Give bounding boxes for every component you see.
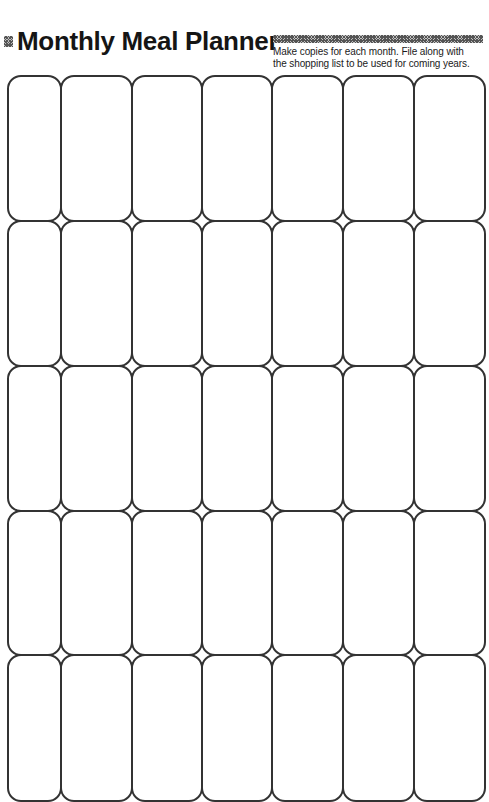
day-cell[interactable] [60,220,133,367]
day-cell[interactable] [413,654,486,802]
day-cell[interactable] [131,220,203,367]
day-cell[interactable] [7,220,62,367]
day-cell[interactable] [7,365,62,512]
day-cell[interactable] [60,75,133,222]
day-cell[interactable] [131,75,203,222]
day-cell[interactable] [60,510,133,656]
day-cell[interactable] [201,220,273,367]
day-cell[interactable] [271,654,344,802]
day-cell[interactable] [201,654,273,802]
day-cell[interactable] [201,365,273,512]
day-cell[interactable] [342,220,415,367]
day-cell[interactable] [342,75,415,222]
day-cell[interactable] [271,510,344,656]
day-cell[interactable] [271,365,344,512]
day-cell[interactable] [413,365,486,512]
day-cell[interactable] [60,654,133,802]
day-cell[interactable] [342,654,415,802]
day-cell[interactable] [60,365,133,512]
day-cell[interactable] [7,654,62,802]
page-title: Monthly Meal Planner [17,26,278,56]
day-cell[interactable] [342,510,415,656]
hatched-bar-decoration [273,35,483,43]
day-cell[interactable] [413,510,486,656]
day-cell[interactable] [7,75,62,222]
day-cell[interactable] [413,220,486,367]
day-cell[interactable] [271,75,344,222]
day-cell[interactable] [271,220,344,367]
hatched-square-icon [4,36,13,47]
day-cell[interactable] [131,365,203,512]
instructions-line-2: the shopping list to be used for coming … [273,58,488,70]
instructions-text: Make copies for each month. File along w… [273,46,488,70]
day-cell[interactable] [131,654,203,802]
day-cell[interactable] [342,365,415,512]
day-cell[interactable] [413,75,486,222]
day-cell[interactable] [131,510,203,656]
day-cell[interactable] [201,510,273,656]
day-cell[interactable] [201,75,273,222]
instructions-line-1: Make copies for each month. File along w… [273,46,488,58]
day-cell[interactable] [7,510,62,656]
